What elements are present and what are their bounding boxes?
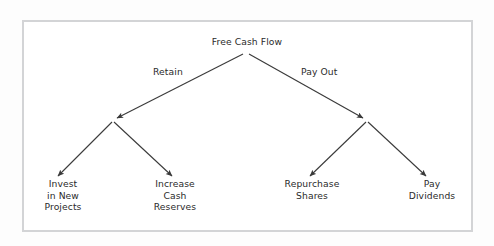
node-invest-in-new-projects: Invest in New Projects <box>13 178 113 213</box>
node-increase-line-3: Reserves <box>125 201 225 213</box>
node-invest-line-2: in New <box>13 190 113 202</box>
node-free-cash-flow: Free Cash Flow <box>0 36 494 48</box>
node-increase-cash-reserves: Increase Cash Reserves <box>125 178 225 213</box>
node-repurchase-line-1: Repurchase <box>262 178 362 190</box>
node-pay-dividends: Pay Dividends <box>382 178 482 201</box>
node-invest-line-3: Projects <box>13 201 113 213</box>
node-increase-line-2: Cash <box>125 190 225 202</box>
node-dividends-line-1: Pay <box>382 178 482 190</box>
figure-root: Free Cash Flow Retain Pay Out Invest in … <box>0 0 494 246</box>
node-increase-line-1: Increase <box>125 178 225 190</box>
node-repurchase-line-2: Shares <box>262 190 362 202</box>
node-invest-line-1: Invest <box>13 178 113 190</box>
edge-label-retain: Retain <box>153 66 183 77</box>
node-repurchase-shares: Repurchase Shares <box>262 178 362 201</box>
edge-label-pay-out: Pay Out <box>301 66 337 77</box>
node-dividends-line-2: Dividends <box>382 190 482 202</box>
